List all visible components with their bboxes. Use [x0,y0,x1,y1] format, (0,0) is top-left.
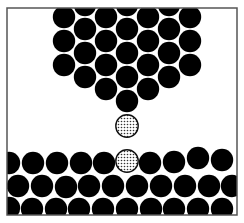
bottom-bed-disc [78,175,100,197]
bottom-bed-disc [7,175,29,197]
top-cluster-disc [137,6,159,28]
top-cluster-disc [95,54,117,76]
bottom-bed-disc [68,198,90,220]
bottom-bed-disc [45,198,67,220]
bottom-bed-disc [211,198,233,220]
top-cluster-disc [53,6,75,28]
top-cluster-disc [74,66,96,88]
stippled-disc [116,150,138,172]
top-cluster-disc [53,30,75,52]
diagram-canvas [0,0,244,223]
top-cluster-disc [74,42,96,64]
bottom-bed-disc [139,152,161,174]
bottom-bed-disc [163,151,185,173]
bottom-bed-disc [211,149,233,171]
bottom-bed-disc [21,198,43,220]
top-cluster-disc [95,6,117,28]
bottom-bed-disc [140,198,162,220]
top-cluster-disc [158,18,180,40]
bottom-bed-disc [55,176,77,198]
top-cluster-disc [116,90,138,112]
top-cluster-disc [74,18,96,40]
stippled-disc [116,115,138,137]
top-cluster-disc [53,54,75,76]
bottom-bed-disc [0,152,20,174]
bottom-bed-disc [46,152,68,174]
bottom-bed-disc [102,175,124,197]
top-cluster-disc [179,6,201,28]
bottom-bed-disc [92,198,114,220]
bottom-bed-disc [93,152,115,174]
top-cluster-disc [95,30,117,52]
bottom-bed-disc [187,147,209,169]
bottom-bed-disc [116,198,138,220]
top-cluster-disc [179,54,201,76]
top-cluster-disc [137,78,159,100]
bottom-bed-disc [126,175,148,197]
top-cluster-disc [137,30,159,52]
bottom-bed-disc [163,198,185,220]
packing-diagram [0,0,244,223]
bottom-bed-disc [31,175,53,197]
top-cluster-disc [158,66,180,88]
bottom-bed-disc [70,152,92,174]
top-cluster-disc [158,42,180,64]
top-cluster-disc [95,78,117,100]
bottom-bed-disc [221,175,243,197]
bottom-bed-disc [0,197,20,219]
top-cluster-disc [116,18,138,40]
disc-group [0,0,243,220]
top-cluster-disc [116,66,138,88]
bottom-bed-disc [198,175,220,197]
bottom-bed-disc [174,175,196,197]
bottom-bed-disc [22,152,44,174]
top-cluster-disc [116,42,138,64]
bottom-bed-disc [187,198,209,220]
bottom-bed-disc [150,175,172,197]
top-cluster-disc [179,30,201,52]
top-cluster-disc [137,54,159,76]
